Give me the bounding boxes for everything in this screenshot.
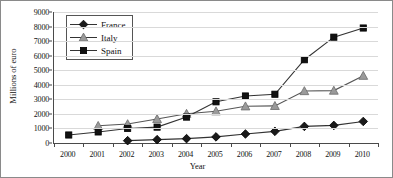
legend-item-france: France [70, 18, 126, 31]
y-tick-label: 9000 [34, 8, 49, 17]
x-tick-label: 2006 [237, 150, 252, 159]
gridline [54, 41, 378, 42]
x-tick-label: 2001 [90, 150, 105, 159]
y-axis-title: Millions of euro [3, 1, 23, 151]
gridline [54, 114, 378, 115]
y-tick-mark [49, 99, 52, 100]
diamond-marker-icon [70, 19, 97, 30]
x-axis-tick-labels: 2000200120022003200420052006200720082009… [53, 147, 377, 161]
y-tick-label: 1000 [34, 124, 49, 133]
square-marker-icon [70, 45, 97, 56]
x-tick-label: 2007 [266, 150, 281, 159]
y-tick-mark [49, 143, 52, 144]
y-tick-label: 3000 [34, 95, 49, 104]
y-tick-mark [49, 70, 52, 71]
y-tick-label: 5000 [34, 66, 49, 75]
x-tick-label: 2008 [296, 150, 311, 159]
y-tick-label: 6000 [34, 51, 49, 60]
gridline [54, 12, 378, 13]
gridline [54, 128, 378, 129]
y-tick-mark [49, 128, 52, 129]
y-tick-mark [49, 26, 52, 27]
y-tick-label: 7000 [34, 37, 49, 46]
x-tick-mark [378, 143, 379, 147]
gridline [54, 85, 378, 86]
y-tick-mark [49, 55, 52, 56]
legend-label: France [97, 20, 126, 30]
x-tick-label: 2005 [207, 150, 222, 159]
gridline [54, 99, 378, 100]
y-axis-title-text: Millions of euro [8, 48, 18, 103]
x-tick-label: 2009 [325, 150, 340, 159]
y-tick-label: 4000 [34, 80, 49, 89]
chart-figure: Millions of euro 01000200030004000500060… [0, 0, 393, 178]
plot-area: France Italy Spain [53, 12, 378, 144]
series-italy [94, 71, 368, 129]
chart-legend: France Italy Spain [66, 15, 133, 60]
y-tick-label: 2000 [34, 109, 49, 118]
x-axis-title: Year [1, 161, 393, 171]
y-axis-tick-labels: 0100020003000400050006000700080009000 [21, 7, 52, 149]
y-tick-mark [49, 41, 52, 42]
x-tick-label: 2002 [119, 150, 134, 159]
x-tick-label: 2010 [355, 150, 370, 159]
gridline [54, 27, 378, 28]
y-tick-mark [49, 84, 52, 85]
gridline [54, 56, 378, 57]
x-tick-label: 2004 [178, 150, 193, 159]
y-tick-mark [49, 113, 52, 114]
x-tick-label: 2003 [148, 150, 163, 159]
legend-label: Spain [97, 46, 122, 56]
y-tick-label: 8000 [34, 22, 49, 31]
y-tick-mark [49, 12, 52, 13]
x-tick-label: 2000 [60, 150, 75, 159]
gridline [54, 70, 378, 71]
